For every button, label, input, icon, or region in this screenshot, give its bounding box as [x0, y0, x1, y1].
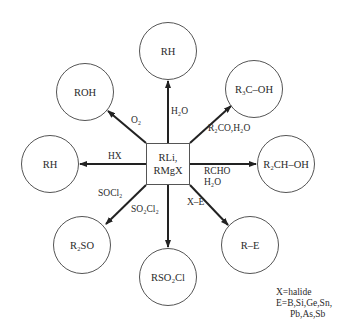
- product-label: R–E: [241, 240, 260, 251]
- product-label: ROH: [74, 87, 96, 98]
- reagent-label-left: HX: [108, 151, 122, 162]
- product-label: R₂CH–OH: [263, 159, 309, 170]
- product-label: RH: [43, 159, 58, 170]
- product-circle-left: RH: [21, 135, 79, 193]
- product-label: R₂SO: [70, 240, 94, 251]
- legend: X=halide E=B,Si,Ge,Sn, Pb,As,Sb: [276, 287, 332, 320]
- product-circle-upper-right: R₃C–OH: [225, 60, 283, 118]
- product-label: R₃C–OH: [235, 84, 273, 95]
- product-circle-bottom: RSO₂Cl: [139, 248, 197, 306]
- reagent-label-upper-left: O₂: [131, 115, 141, 126]
- legend-line-halide: X=halide: [276, 287, 332, 298]
- reagent-label-right-2: H₂O: [204, 177, 221, 188]
- legend-line-elements: E=B,Si,Ge,Sn,: [276, 298, 332, 309]
- reagent-label-lower-right: X–E: [187, 197, 204, 208]
- reagent-label-bottom: SO₂Cl₂: [131, 204, 159, 215]
- legend-line-elements-cont: Pb,As,Sb: [276, 309, 332, 320]
- reagent-label-upper-right: R₂CO,H₂O: [208, 123, 250, 134]
- product-circle-right: R₂CH–OH: [257, 135, 315, 193]
- reagent-label-top: H₂O: [171, 106, 188, 117]
- reagent-label-right-1: RCHO: [204, 166, 230, 177]
- product-label: RH: [161, 46, 176, 57]
- product-label: RSO₂Cl: [151, 272, 185, 283]
- product-circle-lower-right: R–E: [221, 216, 279, 274]
- center-line1: RLi,: [159, 151, 178, 164]
- center-line2: RMgX: [153, 164, 182, 177]
- product-circle-upper-left: ROH: [56, 63, 114, 121]
- reagent-label-lower-left: SOCl₂: [98, 188, 122, 199]
- product-circle-lower-left: R₂SO: [53, 216, 111, 274]
- center-reagent-box: RLi, RMgX: [146, 143, 190, 185]
- product-circle-top: RH: [139, 22, 197, 80]
